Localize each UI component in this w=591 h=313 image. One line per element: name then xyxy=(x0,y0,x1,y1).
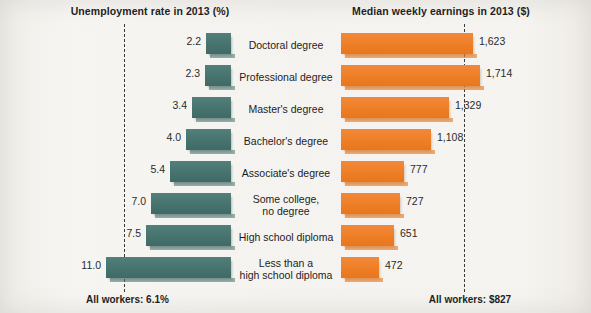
unemployment-bar xyxy=(206,33,231,54)
unemployment-value-label: 5.4 xyxy=(150,163,165,175)
unemployment-value-label: 7.5 xyxy=(126,227,141,239)
unemployment-bar xyxy=(146,225,231,246)
chart-row: 2.2Doctoral degree1,623 xyxy=(0,29,591,61)
right-reference-label: All workers: $827 xyxy=(345,294,591,305)
category-label: Some college, no degree xyxy=(236,190,336,220)
unemployment-bar xyxy=(205,65,231,86)
earnings-bar xyxy=(341,225,394,246)
earnings-value-label: 727 xyxy=(406,195,424,207)
unemployment-bar xyxy=(106,257,231,278)
earnings-bar xyxy=(341,193,400,214)
unemployment-value-label: 4.0 xyxy=(166,131,181,143)
chart-row: 7.0Some college, no degree727 xyxy=(0,189,591,221)
chart-row: 7.5High school diploma651 xyxy=(0,221,591,253)
earnings-bar xyxy=(341,257,379,278)
earnings-bar xyxy=(341,65,480,86)
earnings-value-label: 1,108 xyxy=(437,131,463,143)
earnings-value-label: 1,623 xyxy=(479,35,505,47)
unemployment-value-label: 11.0 xyxy=(81,259,101,271)
category-label: Less than a high school diploma xyxy=(236,254,336,284)
unemployment-value-label: 3.4 xyxy=(172,99,187,111)
category-label: Professional degree xyxy=(236,62,336,92)
education-earnings-chart: Unemployment rate in 2013 (%) Median wee… xyxy=(0,0,591,313)
unemployment-value-label: 7.0 xyxy=(131,195,146,207)
unemployment-value-label: 2.2 xyxy=(186,35,201,47)
category-label: Doctoral degree xyxy=(236,30,336,60)
category-label: High school diploma xyxy=(236,222,336,252)
earnings-value-label: 777 xyxy=(410,163,428,175)
earnings-bar xyxy=(341,33,473,54)
chart-row: 4.0Bachelor's degree1,108 xyxy=(0,125,591,157)
earnings-value-label: 1,329 xyxy=(455,99,481,111)
unemployment-bar xyxy=(170,161,231,182)
left-reference-label: All workers: 6.1% xyxy=(0,294,255,305)
unemployment-bar xyxy=(186,129,231,150)
earnings-bar xyxy=(341,129,431,150)
earnings-bar xyxy=(341,97,449,118)
chart-row: 5.4Associate's degree777 xyxy=(0,157,591,189)
unemployment-bar xyxy=(151,193,231,214)
category-label: Associate's degree xyxy=(236,158,336,188)
earnings-value-label: 651 xyxy=(400,227,418,239)
unemployment-value-label: 2.3 xyxy=(185,67,200,79)
category-label: Bachelor's degree xyxy=(236,126,336,156)
earnings-value-label: 472 xyxy=(385,259,403,271)
earnings-bar xyxy=(341,161,404,182)
chart-row: 11.0Less than a high school diploma472 xyxy=(0,253,591,285)
right-chart-title: Median weekly earnings in 2013 ($) xyxy=(291,5,591,17)
chart-row: 2.3Professional degree1,714 xyxy=(0,61,591,93)
left-chart-title: Unemployment rate in 2013 (%) xyxy=(0,5,300,17)
category-label: Master's degree xyxy=(236,94,336,124)
chart-row: 3.4Master's degree1,329 xyxy=(0,93,591,125)
unemployment-bar xyxy=(192,97,231,118)
earnings-value-label: 1,714 xyxy=(486,67,512,79)
